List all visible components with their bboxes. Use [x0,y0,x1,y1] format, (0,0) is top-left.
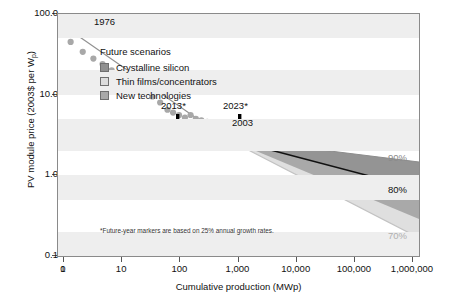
legend-title: Future scenarios [100,46,217,57]
label-70-percent: 70% [388,230,407,241]
x-axis-tick-label: 100,000 [337,263,371,274]
x-axis-tick [238,257,239,262]
x-axis-tick-label: 1,000,000 [391,263,433,274]
legend-item-label: Thin films/concentrators [116,76,217,87]
y-axis-tick-label: 100.0 [12,7,58,18]
legend-item-label: New technologies [116,90,191,101]
stripe-band [58,175,419,199]
x-axis-tick [63,257,64,262]
chart-figure: PV module price (2003$ per Wp) 100.010.0… [0,0,450,301]
x-axis-tick [354,257,355,262]
x-axis-tick-label: 10,000 [281,263,310,274]
legend-item: New technologies [100,90,217,101]
x-axis-tick [121,257,122,262]
legend-item-label: Crystalline silicon [116,62,189,73]
legend-item: Crystalline silicon [100,62,217,73]
x-axis-tick [412,257,413,262]
label-80-percent: 80% [388,184,407,195]
data-point [80,49,86,55]
y-axis-title: PV module price (2003$ per Wp) [25,5,36,235]
x-axis-tick-label: 10 [116,263,127,274]
label-90-percent: 90% [388,152,407,163]
legend-item: Thin films/concentrators [100,76,217,87]
y-axis-title-subscript: p [30,54,37,58]
x-axis-tick [179,257,180,262]
data-point [90,56,96,62]
plot-area: 1976 2003 2013* 2023* 90% 80% 70% Future… [57,13,420,257]
x-axis-tick-label: 1,000 [226,263,250,274]
legend-items: Crystalline siliconThin films/concentrat… [100,62,217,101]
legend-swatch [100,63,109,72]
annotation-2023: 2023* [223,100,248,111]
y-axis-tick-label: 0.1 [12,249,58,260]
x-axis-tick-label: 100 [171,263,187,274]
legend-swatch [100,91,109,100]
y-axis-tick-label: 1.0 [12,168,58,179]
data-point [68,39,74,45]
footnote: *Future-year markers are based on 25% an… [100,227,274,234]
x-axis-tick [296,257,297,262]
x-axis-tick-label: 1 [60,263,65,274]
annotation-1976: 1976 [94,16,115,27]
y-axis-tick-label: 10.0 [12,88,58,99]
legend-swatch [100,77,109,86]
stripe-band [58,232,419,256]
legend: Future scenarios Crystalline siliconThin… [100,46,217,104]
data-point [187,112,193,118]
annotation-2003: 2003 [232,117,253,128]
x-axis-title: Cumulative production (MWp) [57,281,420,292]
